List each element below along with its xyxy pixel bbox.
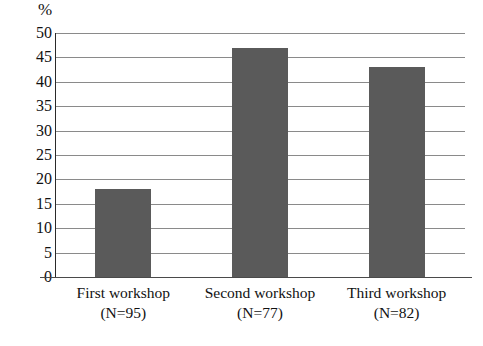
y-axis-line: [55, 33, 56, 278]
y-axis-tick-label: 15: [12, 196, 52, 212]
y-axis-tick-label: 30: [12, 123, 52, 139]
category-sample-size: (N=77): [192, 303, 329, 323]
y-axis-tick-labels: 50454035302520151050: [4, 0, 52, 346]
x-axis-category-label: First workshop(N=95): [55, 283, 192, 323]
bar: [95, 189, 151, 277]
category-sample-size: (N=82): [328, 303, 465, 323]
category-name: Third workshop: [328, 283, 465, 303]
x-axis-category-labels: First workshop(N=95)Second workshop(N=77…: [55, 283, 467, 343]
y-axis-tick-label: 5: [12, 245, 52, 261]
bar: [232, 48, 288, 277]
y-axis-tick-label: 25: [12, 147, 52, 163]
bar: [369, 67, 425, 277]
y-axis-tick-label: 40: [12, 74, 52, 90]
x-axis-category-label: Third workshop(N=82): [328, 283, 465, 323]
bar-chart: % 50454035302520151050 First workshop(N=…: [0, 0, 483, 346]
category-name: Second workshop: [192, 283, 329, 303]
y-axis-tick-label: 50: [12, 25, 52, 41]
x-axis-category-label: Second workshop(N=77): [192, 283, 329, 323]
y-axis-tick-label: 35: [12, 98, 52, 114]
category-name: First workshop: [55, 283, 192, 303]
y-axis-tick-label: 45: [12, 49, 52, 65]
y-axis-tick-label: 20: [12, 171, 52, 187]
y-axis-tick-label: 10: [12, 220, 52, 236]
gridline: [55, 33, 465, 34]
x-axis-line: [40, 277, 472, 278]
plot-area: [55, 33, 465, 277]
category-sample-size: (N=95): [55, 303, 192, 323]
